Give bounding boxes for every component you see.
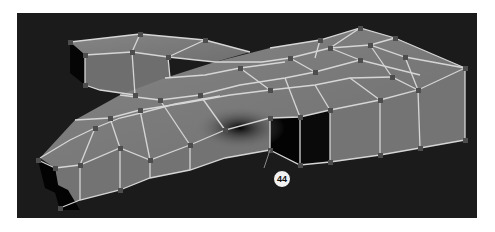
3d-viewport: 44 [17,13,477,218]
callout-badge: 44 [273,170,291,188]
callout-leader [264,150,270,168]
mesh-render [17,13,477,218]
